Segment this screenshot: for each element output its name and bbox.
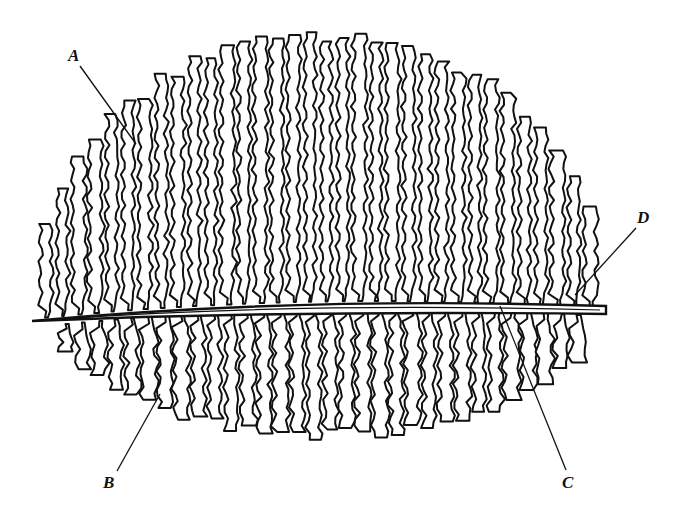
upper-lamella (154, 74, 169, 308)
lower-lamella (239, 312, 259, 426)
upper-lamella (450, 73, 467, 302)
lower-lamella (322, 309, 340, 429)
label-b: B (103, 473, 114, 493)
upper-lamella (418, 54, 434, 301)
upper-lamella (218, 45, 237, 304)
upper-lamella (236, 42, 252, 304)
lower-lamella (388, 309, 406, 435)
lower-lamella (305, 310, 322, 440)
lower-lamella (58, 324, 74, 351)
upper-lamella (401, 46, 417, 301)
upper-lamella (104, 114, 120, 312)
upper-lamella (170, 77, 187, 307)
label-c: C (562, 473, 573, 493)
upper-lamella (269, 38, 285, 302)
lower-lamella (74, 322, 91, 369)
lower-lamella (108, 320, 125, 390)
upper-lamella (533, 127, 549, 305)
lower-lamella (421, 309, 438, 428)
label-a: A (68, 46, 79, 66)
upper-lamella (204, 58, 219, 305)
upper-lamella (468, 75, 483, 303)
lower-lamella (171, 315, 191, 420)
upper-lamella (483, 79, 501, 303)
upper-lamella (187, 56, 203, 306)
central-filament (32, 303, 606, 321)
leader-line-b (117, 394, 160, 471)
label-d: D (637, 208, 649, 228)
lower-lamella (190, 314, 208, 417)
upper-lamellae (38, 32, 599, 317)
lower-lamella (553, 314, 570, 368)
lower-lamella (223, 312, 240, 431)
upper-lamella (137, 99, 154, 309)
upper-lamella (285, 35, 302, 302)
lower-lamella (338, 309, 356, 428)
upper-lamella (319, 41, 334, 301)
lower-lamella (370, 309, 390, 437)
upper-lamella (252, 37, 270, 303)
lower-lamella (90, 321, 109, 375)
upper-lamella (303, 32, 318, 302)
lower-lamella (354, 309, 372, 432)
filament-outer-edge (32, 303, 606, 321)
gill-diagram (0, 0, 690, 524)
upper-lamella (87, 140, 105, 313)
upper-lamella (517, 117, 533, 304)
upper-lamella (121, 101, 137, 311)
upper-lamella (71, 157, 88, 315)
lower-lamella (453, 310, 473, 421)
upper-lamella (582, 207, 599, 308)
upper-lamella (55, 188, 70, 316)
lower-lamella (402, 309, 423, 425)
lower-lamella (207, 313, 224, 418)
upper-lamella (351, 34, 369, 301)
upper-lamella (548, 150, 566, 306)
upper-lamella (434, 61, 449, 301)
upper-lamella (566, 176, 581, 307)
lower-lamellae (58, 309, 587, 440)
upper-lamella (384, 43, 402, 301)
upper-lamella (335, 38, 350, 301)
upper-lamella (38, 224, 53, 318)
lower-lamella (255, 311, 273, 433)
lower-lamella (271, 311, 291, 433)
upper-lamella (369, 43, 384, 301)
upper-lamella (500, 93, 517, 304)
